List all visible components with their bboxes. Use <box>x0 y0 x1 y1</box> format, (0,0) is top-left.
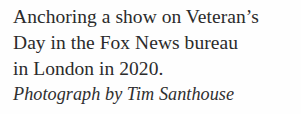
caption-line-3: in London in 2020. <box>13 56 301 82</box>
photo-caption-block: Anchoring a show on Veteran’s Day in the… <box>13 4 301 108</box>
photo-credit: Photograph by Tim Santhouse <box>13 82 301 108</box>
caption-line-2: Day in the Fox News bureau <box>13 30 301 56</box>
caption-line-1: Anchoring a show on Veteran’s <box>13 4 301 30</box>
